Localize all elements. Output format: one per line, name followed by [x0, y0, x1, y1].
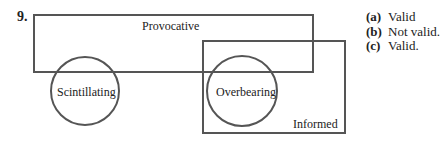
answer-text: Valid: [388, 9, 415, 24]
answers-list: (a)Valid (b)Not valid. (c)Valid.: [366, 10, 440, 54]
informed-label: Informed: [293, 117, 338, 131]
answer-text: Not valid.: [388, 24, 440, 39]
answer-a: (a)Valid: [366, 10, 440, 25]
provocative-label: Provocative: [142, 19, 199, 33]
answer-c: (c)Valid.: [366, 39, 440, 54]
answer-b: (b)Not valid.: [366, 25, 440, 40]
scintillating-label: Scintillating: [57, 85, 116, 99]
answer-key: (a): [366, 10, 388, 25]
overbearing-label: Overbearing: [216, 85, 276, 99]
answer-key: (b): [366, 25, 388, 40]
answer-text: Valid.: [388, 38, 419, 53]
answer-key: (c): [366, 39, 388, 54]
